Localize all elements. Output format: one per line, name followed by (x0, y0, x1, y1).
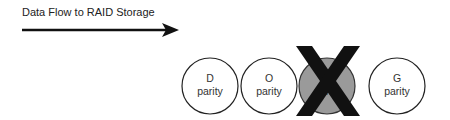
disk-d: D parity (182, 58, 238, 114)
disk-sub-label: parity (197, 85, 223, 97)
disk-letter: O (265, 72, 273, 84)
disk-sub-label: parity (384, 85, 410, 97)
raid-diagram: D parity O parity P parity G parity (0, 0, 450, 120)
data-flow-arrow (22, 23, 179, 37)
disk-sub-label: parity (256, 85, 282, 97)
disk-letter: D (206, 72, 214, 84)
disk-o: O parity (241, 58, 297, 114)
disk-g: G parity (369, 58, 425, 114)
disk-failed: P parity (296, 46, 360, 116)
disk-letter: G (393, 72, 401, 84)
